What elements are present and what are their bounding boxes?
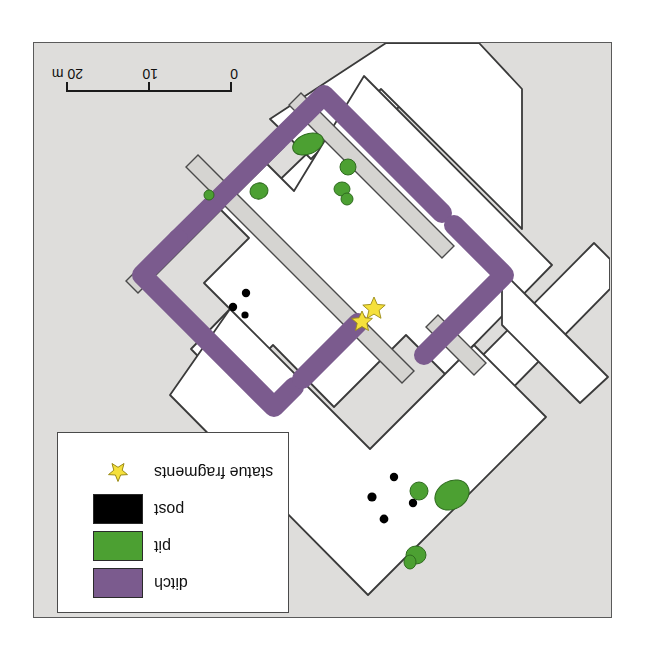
legend-label-ditch: ditch xyxy=(143,574,288,592)
legend-label-pit: pit xyxy=(143,537,288,555)
excavation-plan-figure: 0 10 20 m ditch pit post statue fragment… xyxy=(0,0,645,668)
legend-row-statue-fragments: statue fragments xyxy=(56,452,288,492)
pit xyxy=(404,555,416,569)
legend-star-icon xyxy=(93,457,143,487)
post xyxy=(367,492,376,501)
pit xyxy=(341,193,353,205)
pit xyxy=(410,482,428,500)
legend-label-post: post xyxy=(143,500,288,518)
scale-tick-0 xyxy=(230,82,232,92)
scale-bar: 0 10 20 m xyxy=(50,62,240,122)
scale-tick-20 xyxy=(66,82,68,92)
post xyxy=(390,473,398,481)
legend-row-post: post xyxy=(56,489,288,529)
post xyxy=(242,289,250,297)
legend-row-ditch: ditch xyxy=(56,563,288,603)
scale-label-10: 10 xyxy=(142,66,158,82)
pit xyxy=(204,190,214,200)
pit xyxy=(340,159,356,175)
map-legend: ditch pit post statue fragments xyxy=(57,432,289,613)
post xyxy=(241,311,248,318)
legend-swatch-post xyxy=(93,494,143,524)
legend-label-statue-fragments: statue fragments xyxy=(143,463,288,481)
scale-label-0: 0 xyxy=(230,66,238,82)
scale-tick-10 xyxy=(148,82,150,92)
post xyxy=(229,303,237,311)
legend-swatch-ditch xyxy=(93,568,143,598)
post xyxy=(380,515,389,524)
post xyxy=(409,499,417,507)
scale-label-20: 20 m xyxy=(52,66,83,82)
legend-swatch-pit xyxy=(93,531,143,561)
legend-row-pit: pit xyxy=(56,526,288,566)
